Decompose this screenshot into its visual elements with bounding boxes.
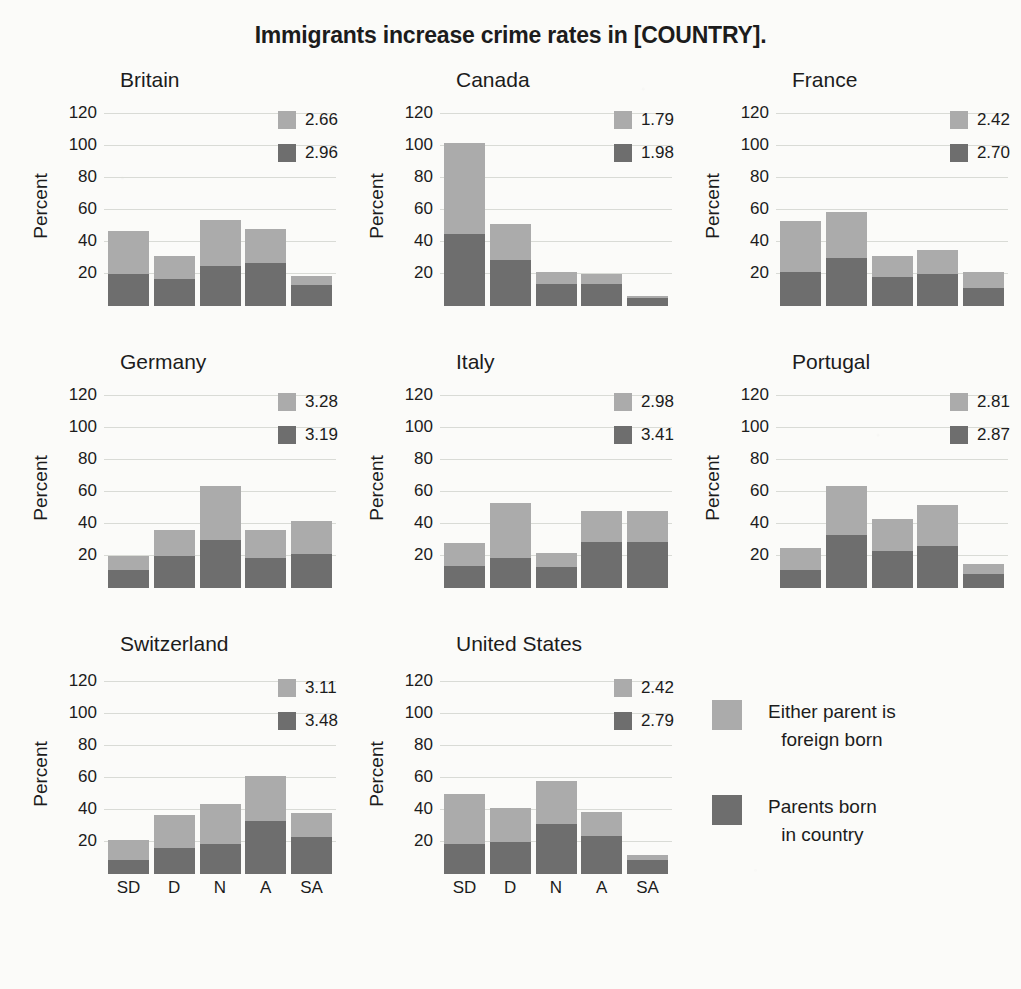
bar-segment-foreign-born	[108, 231, 149, 274]
bar-segment-native-born	[245, 263, 286, 306]
stacked-bar	[826, 486, 867, 588]
bar-segment-foreign-born	[200, 804, 241, 844]
stacked-bar	[536, 553, 577, 588]
x-axis-tick: D	[490, 878, 531, 898]
facet-mean-value: 2.42	[641, 678, 674, 698]
facet-mean-value: 2.70	[977, 143, 1010, 163]
facet-mean-legend-row: 1.79	[614, 110, 674, 130]
stacked-bar	[826, 212, 867, 306]
x-axis-tick: A	[245, 878, 286, 898]
bar-segment-foreign-born	[108, 556, 149, 570]
stacked-bar	[581, 812, 622, 874]
bar-segment-foreign-born	[917, 250, 958, 274]
facet-title: United States	[456, 632, 582, 656]
bar-segment-foreign-born	[581, 812, 622, 836]
facet-mean-value: 3.28	[305, 392, 338, 412]
bar-segment-native-born	[872, 277, 913, 306]
main-legend: Either parent isforeign bornParents born…	[680, 630, 1016, 930]
x-axis-tick: N	[200, 878, 241, 898]
stacked-bar	[627, 855, 668, 874]
legend-item-foreign-born: Either parent isforeign born	[712, 698, 1016, 753]
facet-mean-value: 3.48	[305, 711, 338, 731]
facet-title: Canada	[456, 68, 530, 92]
bar-segment-native-born	[780, 272, 821, 306]
stacked-bar	[444, 794, 485, 874]
y-axis-label-text: Percent	[30, 741, 52, 806]
stacked-bar	[444, 143, 485, 306]
y-axis-tick: 120	[405, 385, 433, 405]
facet-mean-value: 2.81	[977, 392, 1010, 412]
bar-segment-native-born	[444, 234, 485, 306]
legend-swatch-native-born-icon	[278, 426, 296, 444]
y-axis-tick: 20	[414, 545, 433, 565]
bar-segment-native-born	[581, 836, 622, 874]
bar-segment-foreign-born	[245, 530, 286, 557]
facet-mean-value: 2.98	[641, 392, 674, 412]
facet-mean-legend-row: 3.19	[278, 425, 338, 445]
x-axis-tick: A	[581, 878, 622, 898]
bar-segment-native-born	[444, 844, 485, 874]
bar-segment-native-born	[291, 285, 332, 306]
bar-segment-native-born	[490, 558, 531, 588]
y-axis-tick: 80	[78, 167, 97, 187]
facet-mean-legend-row: 3.11	[278, 678, 338, 698]
y-axis-tick: 80	[414, 735, 433, 755]
facet-title: Germany	[120, 350, 206, 374]
y-axis-label-text: Percent	[702, 455, 724, 520]
facet-mean-legend-row: 2.81	[950, 392, 1010, 412]
y-axis-tick: 80	[750, 167, 769, 187]
bar-segment-foreign-born	[291, 813, 332, 837]
y-axis-tick: 100	[405, 135, 433, 155]
facet-mean-value: 2.96	[305, 143, 338, 163]
x-axis-tick: SA	[627, 878, 668, 898]
stacked-bar	[780, 221, 821, 306]
stacked-bar	[917, 250, 958, 306]
facet-mean-value: 2.42	[977, 110, 1010, 130]
facet-mean-value: 2.66	[305, 110, 338, 130]
y-axis-label: Percent	[30, 674, 52, 874]
stacked-bar	[108, 556, 149, 588]
stacked-bar	[200, 486, 241, 588]
facet-mean-legend-row: 2.42	[950, 110, 1010, 130]
y-axis-tick: 120	[405, 671, 433, 691]
bar-segment-foreign-born	[826, 486, 867, 536]
bar-segment-native-born	[291, 837, 332, 874]
facet-mean-value: 3.11	[305, 678, 337, 698]
y-axis-label-text: Percent	[702, 173, 724, 238]
facet-panel-switzerland: SwitzerlandPercent120100806040203.113.48…	[8, 630, 344, 930]
bar-segment-native-born	[826, 258, 867, 306]
y-axis-tick: 80	[78, 735, 97, 755]
bar-segment-foreign-born	[490, 808, 531, 842]
stacked-bar	[291, 521, 332, 588]
legend-swatch-foreign-born-icon	[278, 111, 296, 129]
bar-segment-native-born	[627, 298, 668, 306]
y-axis-tick: 100	[741, 135, 769, 155]
stacked-bar	[627, 296, 668, 306]
bar-segment-foreign-born	[444, 143, 485, 234]
y-axis-label: Percent	[702, 106, 724, 306]
legend-label-line1: Parents born	[768, 793, 877, 821]
legend-label-line2: foreign born	[768, 726, 896, 754]
bar-segment-native-born	[108, 274, 149, 306]
x-axis-tick: SD	[444, 878, 485, 898]
bar-segment-native-born	[581, 284, 622, 306]
bar-segment-foreign-born	[963, 564, 1004, 574]
bar-segment-native-born	[200, 540, 241, 588]
facet-panel-united-states: United StatesPercent120100806040202.422.…	[344, 630, 680, 930]
bar-segment-native-born	[444, 566, 485, 588]
stacked-bar	[627, 511, 668, 588]
facet-mean-legend-row: 2.87	[950, 425, 1010, 445]
bar-segment-native-born	[872, 551, 913, 588]
bar-segment-foreign-born	[444, 794, 485, 844]
bar-segment-native-born	[490, 260, 531, 306]
stacked-bar	[780, 548, 821, 588]
facet-mean-legend: 2.422.70	[950, 110, 1010, 163]
facet-mean-legend-row: 3.41	[614, 425, 674, 445]
bar-segment-native-born	[963, 574, 1004, 588]
stacked-bar	[245, 530, 286, 588]
legend-swatch-native-born-icon	[950, 144, 968, 162]
bar-segment-foreign-born	[490, 224, 531, 259]
legend-swatch-native-born-icon	[950, 426, 968, 444]
x-axis-tick: N	[536, 878, 577, 898]
y-axis-tick: 80	[414, 449, 433, 469]
